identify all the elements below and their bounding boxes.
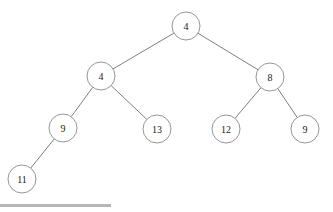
tree-node[interactable]: 4 [172, 12, 200, 40]
tree-node[interactable]: 9 [49, 114, 77, 142]
node-label: 13 [152, 124, 162, 135]
tree-edges-group [31, 33, 297, 168]
node-label: 9 [61, 123, 66, 134]
tree-node[interactable]: 8 [256, 63, 284, 91]
tree-edge [111, 86, 147, 120]
node-label: 4 [184, 21, 189, 32]
tree-edge [198, 33, 258, 69]
node-label: 8 [268, 72, 273, 83]
tree-node[interactable]: 11 [8, 165, 36, 193]
tree-node[interactable]: 4 [87, 62, 115, 90]
node-label: 12 [221, 124, 231, 135]
tree-edge [71, 87, 92, 116]
tree-edge [278, 89, 297, 118]
tree-edge [113, 33, 174, 69]
tree-edge [235, 88, 261, 119]
node-label: 11 [17, 174, 27, 185]
tree-edge [31, 139, 54, 168]
node-label: 4 [99, 71, 104, 82]
tree-node[interactable]: 13 [143, 115, 171, 143]
footer-horizontal-rule [0, 204, 111, 207]
node-label: 9 [303, 124, 308, 135]
binary-tree-diagram: 44891312911 [0, 0, 333, 212]
tree-node[interactable]: 12 [212, 115, 240, 143]
tree-node[interactable]: 9 [291, 115, 319, 143]
